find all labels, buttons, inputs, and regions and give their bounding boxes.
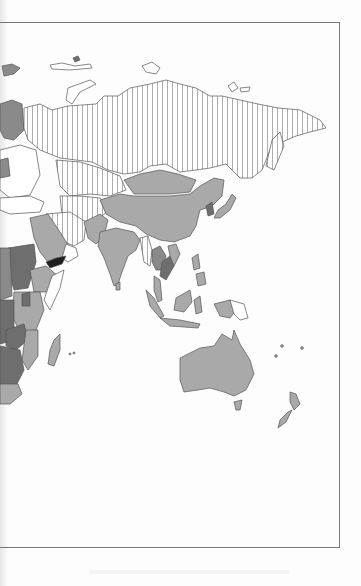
myanmar: [140, 236, 152, 266]
malaysia: [154, 276, 162, 302]
choropleth-map: [0, 0, 361, 586]
bleed-through-text: [90, 570, 290, 574]
papua-new-guinea: [230, 300, 248, 320]
novaya-zemlya: [66, 80, 96, 104]
uganda: [22, 292, 30, 306]
madagascar: [48, 334, 60, 366]
southern-africa: [0, 346, 24, 390]
new-zealand: [278, 392, 300, 428]
finland: [0, 100, 24, 140]
turkey: [0, 196, 44, 214]
western-balkan: [0, 158, 10, 178]
sudan: [8, 244, 36, 290]
central-africa: [0, 248, 12, 300]
mongolia: [124, 170, 196, 194]
philippines: [192, 254, 206, 286]
scanned-page: [0, 0, 361, 586]
arctic-islands: [2, 56, 250, 92]
australia: [180, 330, 254, 396]
south-africa: [0, 384, 22, 404]
india: [98, 228, 140, 286]
tasmania: [234, 400, 242, 410]
